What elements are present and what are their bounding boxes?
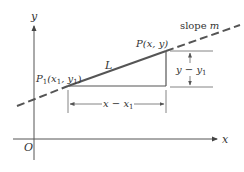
rise-main: y − y	[175, 64, 202, 75]
point-slope-diagram: y x O L P1(x1, y1) P(x, y) slope m x − x…	[0, 0, 244, 172]
svg-text:P1(x1, y1): P1(x1, y1)	[35, 73, 82, 86]
line-l-label: L	[104, 59, 112, 72]
y-axis-label: y	[30, 10, 38, 23]
rise-label: y − y1	[175, 64, 207, 77]
run-main: x − x	[103, 98, 129, 109]
run-sub: 1	[129, 103, 133, 111]
p1-coords-close: )	[78, 73, 82, 84]
origin-label: O	[24, 141, 33, 154]
diagram-canvas: y x O L P1(x1, y1) P(x, y) slope m x − x…	[0, 0, 244, 172]
point-p-label: P(x, y)	[135, 38, 168, 49]
svg-text:y − y1: y − y1	[175, 64, 207, 77]
x-axis-label: x	[222, 133, 229, 146]
svg-text:x − x1: x − x1	[103, 98, 133, 111]
slope-text: slope	[180, 20, 210, 31]
slope-var: m	[210, 20, 219, 31]
run-label: x − x1	[103, 98, 133, 111]
slope-label: slope m	[180, 20, 219, 31]
line-l	[17, 25, 240, 106]
svg-text:slope m: slope m	[180, 20, 219, 31]
p1-coords-open: (x	[47, 73, 57, 84]
p1-coords-mid: , y	[61, 73, 73, 84]
rise-sub: 1	[202, 69, 206, 77]
point-p1-label: P1(x1, y1)	[35, 73, 82, 86]
